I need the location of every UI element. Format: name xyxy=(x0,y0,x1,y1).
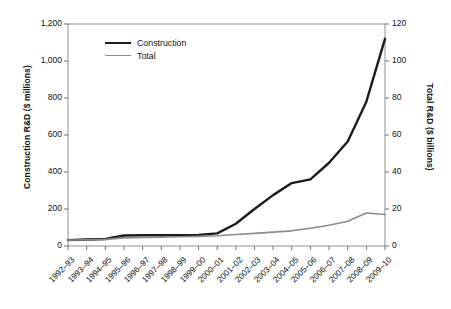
left-tick-label: 200 xyxy=(22,204,62,213)
right-tick-label: 40 xyxy=(392,167,432,176)
right-tick-label: 60 xyxy=(392,130,432,139)
left-tick-label: 400 xyxy=(22,167,62,176)
right-tick-label: 20 xyxy=(392,204,432,213)
right-tick-label: 80 xyxy=(392,93,432,102)
legend-item-construction: Construction xyxy=(105,36,186,49)
left-tick-label: 1,000 xyxy=(22,56,62,65)
left-tick-label: 1,200 xyxy=(22,19,62,28)
legend-label-construction: Construction xyxy=(137,38,186,48)
chart-container: Construction R&D ($ millions) Total R&D … xyxy=(0,0,451,309)
left-tick-label: 800 xyxy=(22,93,62,102)
legend-item-total: Total xyxy=(105,49,186,62)
right-tick-label: 120 xyxy=(392,19,432,28)
legend-label-total: Total xyxy=(137,51,156,61)
chart-legend: Construction Total xyxy=(105,36,186,62)
left-tick-label: 0 xyxy=(22,241,62,250)
legend-line-construction-icon xyxy=(105,42,131,44)
legend-line-total-icon xyxy=(105,55,131,56)
right-tick-label: 0 xyxy=(392,241,432,250)
right-tick-label: 100 xyxy=(392,56,432,65)
left-tick-label: 600 xyxy=(22,130,62,139)
series-line-construction xyxy=(68,39,385,240)
